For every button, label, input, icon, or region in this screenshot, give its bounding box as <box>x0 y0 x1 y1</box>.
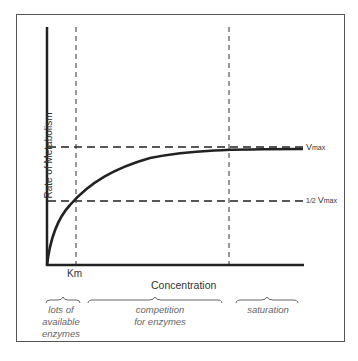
vmax-label: Vmax <box>306 142 325 152</box>
brace-region1 <box>46 297 80 303</box>
x-axis-label: Concentration <box>151 279 216 291</box>
region1-label: lots ofavailableenzymes <box>38 304 84 340</box>
region3-label: saturation <box>238 304 298 316</box>
brace-region3 <box>236 297 298 303</box>
region2-label: competitionfor enzymes <box>115 304 205 328</box>
half-vmax-label: 1/2 Vmax <box>306 195 337 205</box>
km-label: Km <box>67 268 82 279</box>
y-axis-label: Rate of Metabolism <box>43 96 54 216</box>
rate-curve <box>47 149 303 265</box>
brace-region2 <box>88 297 222 303</box>
